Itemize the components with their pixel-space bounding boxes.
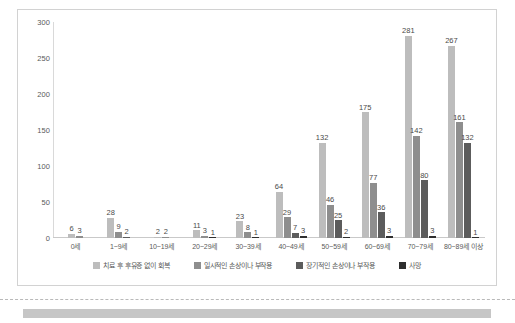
bar-value-label: 80	[420, 172, 428, 180]
bar-groups: 6328922211312381642973132462521757736328…	[54, 22, 485, 238]
bar[interactable]: 80	[421, 180, 428, 238]
bar[interactable]: 3	[201, 236, 208, 238]
bar-value-label: 2	[344, 228, 348, 236]
plot-area: 050100150200250300 632892221131238164297…	[18, 10, 496, 285]
bar[interactable]: 77	[370, 183, 377, 238]
bar-group: 2671611321	[442, 22, 485, 238]
legend-item[interactable]: 치료 후 후유증 없이 회복	[93, 260, 169, 270]
x-axis-tick-label: 10~19세	[140, 241, 183, 255]
bar-value-label: 1	[211, 229, 215, 237]
bar[interactable]: 3	[76, 236, 83, 238]
bar[interactable]: 3	[429, 236, 436, 238]
bar-value-label: 46	[326, 196, 334, 204]
bar[interactable]: 132	[464, 143, 471, 238]
bar-value-label: 2	[164, 228, 168, 236]
legend-item[interactable]: 장기적인 손상이나 부작용	[296, 260, 375, 270]
x-axis-tick-label: 20~29세	[183, 241, 226, 255]
bar[interactable]: 1	[209, 237, 216, 238]
y-axis: 050100150200250300	[22, 22, 52, 237]
x-axis-tick-label: 1~9세	[97, 241, 140, 255]
bar-value-label: 267	[445, 37, 458, 45]
bar[interactable]: 46	[327, 205, 334, 238]
x-axis-tick-label: 70~79세	[399, 241, 442, 255]
bar-value-label: 161	[453, 114, 466, 122]
bar-group: 13246252	[313, 22, 356, 238]
legend-item[interactable]: 일시적인 손상이나 부작용	[194, 260, 273, 270]
bar[interactable]: 1	[252, 237, 259, 238]
y-axis-tick: 250	[37, 54, 50, 63]
bar-value-label: 29	[283, 209, 291, 217]
bar[interactable]: 2	[343, 237, 350, 238]
bar-value-label: 2	[156, 228, 160, 236]
bar-value-label: 1	[473, 229, 477, 237]
y-axis-tick: 300	[37, 18, 50, 27]
bar[interactable]: 175	[362, 112, 369, 238]
bar-value-label: 3	[203, 227, 207, 235]
bar[interactable]: 36	[378, 212, 385, 238]
legend-swatch-icon	[296, 262, 303, 269]
bar[interactable]: 11	[193, 230, 200, 238]
legend-label: 치료 후 후유증 없이 회복	[103, 260, 169, 270]
bar[interactable]: 29	[284, 217, 291, 238]
bar-value-label: 281	[402, 27, 415, 35]
bar-value-label: 132	[316, 134, 329, 142]
bar[interactable]: 281	[405, 36, 412, 238]
y-axis-tick: 150	[37, 126, 50, 135]
bar[interactable]: 2	[123, 237, 130, 238]
bar-value-label: 25	[334, 212, 342, 220]
bar-value-label: 3	[430, 227, 434, 235]
bar[interactable]: 132	[319, 143, 326, 238]
x-axis-tick-label: 50~59세	[313, 241, 356, 255]
legend-label: 사망	[409, 260, 421, 270]
bar[interactable]: 142	[413, 136, 420, 238]
bar-value-label: 77	[369, 174, 377, 182]
bar-value-label: 2	[125, 228, 129, 236]
bar[interactable]: 3	[300, 236, 307, 238]
bar[interactable]: 25	[335, 220, 342, 238]
bar[interactable]: 1	[472, 237, 479, 238]
bar[interactable]: 2	[154, 237, 161, 238]
y-axis-tick: 100	[37, 162, 50, 171]
bar-value-label: 8	[246, 224, 250, 232]
bar-value-label: 28	[106, 209, 114, 217]
bar[interactable]: 6	[68, 234, 75, 238]
bar-group: 17577363	[356, 22, 399, 238]
y-axis-tick: 50	[41, 198, 50, 207]
bar[interactable]: 7	[292, 233, 299, 238]
legend-swatch-icon	[93, 262, 100, 269]
y-axis-tick: 0	[46, 234, 50, 243]
x-axis-tick-label: 30~39세	[226, 241, 269, 255]
bar-group: 63	[54, 22, 97, 238]
x-axis-tick-label: 40~49세	[269, 241, 312, 255]
bar-group: 22	[140, 22, 183, 238]
bar-group: 1131	[183, 22, 226, 238]
bar[interactable]: 3	[386, 236, 393, 238]
bar-value-label: 3	[387, 227, 391, 235]
bar[interactable]: 2	[162, 237, 169, 238]
legend-swatch-icon	[194, 262, 201, 269]
bottom-gray-bar	[23, 309, 491, 318]
bar-value-label: 23	[236, 213, 244, 221]
bar[interactable]: 8	[244, 232, 251, 238]
bar[interactable]: 64	[276, 192, 283, 238]
bar-value-label: 6	[69, 225, 73, 233]
bar-value-label: 175	[359, 104, 372, 112]
x-axis-category-labels: 0세1~9세10~19세20~29세30~39세40~49세50~59세60~6…	[54, 241, 485, 255]
bar[interactable]: 267	[448, 46, 455, 238]
bar-group: 2892	[97, 22, 140, 238]
bar-group: 281142803	[399, 22, 442, 238]
y-axis-tick: 200	[37, 90, 50, 99]
bar[interactable]: 9	[115, 232, 122, 238]
bar-value-label: 64	[275, 183, 283, 191]
dashed-separator	[0, 299, 515, 300]
x-axis-tick-label: 60~69세	[356, 241, 399, 255]
x-axis-tick-label: 0세	[54, 241, 97, 255]
bar[interactable]: 28	[107, 218, 114, 238]
legend-label: 일시적인 손상이나 부작용	[204, 260, 273, 270]
chart-frame: 050100150200250300 632892221131238164297…	[17, 9, 497, 286]
bar-value-label: 3	[77, 227, 81, 235]
bar-value-label: 36	[377, 204, 385, 212]
bar-value-label: 7	[293, 224, 297, 232]
bar[interactable]: 23	[236, 221, 243, 238]
legend-item[interactable]: 사망	[399, 260, 421, 270]
